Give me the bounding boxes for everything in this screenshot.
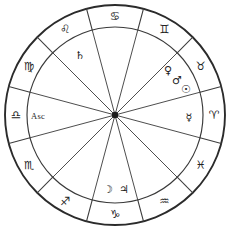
sign-divider [87, 200, 93, 221]
sign-glyph-scorpio: ♏ [24, 158, 34, 172]
sign-glyph-cancer: ♋ [110, 9, 120, 23]
planet-glyph-venus: ♀ [164, 64, 172, 77]
planet-glyph-sun: ☉ [181, 83, 191, 96]
chart-point-ascendant: Asc [31, 111, 45, 121]
sign-divider [9, 87, 30, 93]
sign-divider [200, 87, 221, 93]
sign-divider [138, 9, 144, 30]
chart-point-labels: Asc [31, 111, 45, 121]
sign-divider [9, 138, 30, 144]
sign-divider [37, 37, 53, 53]
sign-divider [200, 138, 221, 144]
planet-glyphs: ♄♀♂☉☿☽♃ [75, 49, 192, 196]
chart-center-hub [112, 112, 118, 118]
chart-canvas: ♎♍♌♋♊♉♈♓♒♑♐♏ ♄♀♂☉☿☽♃ Asc [0, 0, 229, 231]
sign-divider [177, 177, 193, 193]
sign-glyph-aquarius: ♒ [159, 194, 169, 208]
sign-glyph-libra: ♎ [11, 108, 21, 122]
sign-divider [87, 9, 93, 30]
house-cusp-line [115, 115, 177, 177]
house-cusp-line [92, 30, 115, 115]
planet-glyph-jupiter: ♃ [119, 183, 129, 196]
sign-glyph-aries: ♈ [209, 108, 220, 122]
planet-glyph-mercury: ☿ [186, 111, 193, 124]
sign-divider [138, 200, 144, 221]
sign-glyph-virgo: ♍ [24, 59, 34, 73]
sign-divider [37, 177, 53, 193]
house-cusp-line [53, 115, 115, 177]
house-cusp-line [115, 30, 138, 115]
sign-glyph-taurus: ♉ [196, 59, 206, 73]
sign-glyph-sagittarius: ♐ [60, 194, 70, 208]
sign-glyph-capricorn: ♑ [110, 207, 120, 221]
planet-glyph-moon: ☽ [103, 183, 113, 196]
sign-glyph-gemini: ♊ [159, 22, 169, 36]
house-cusp-line [115, 53, 177, 115]
sign-glyph-leo: ♌ [60, 22, 70, 36]
sign-glyph-pisces: ♓ [196, 158, 206, 172]
house-cusp-line [53, 53, 115, 115]
planet-glyph-saturn: ♄ [75, 49, 85, 62]
astrology-chart-wheel: ♎♍♌♋♊♉♈♓♒♑♐♏ ♄♀♂☉☿☽♃ Asc [0, 0, 229, 231]
sign-divider [177, 37, 193, 53]
